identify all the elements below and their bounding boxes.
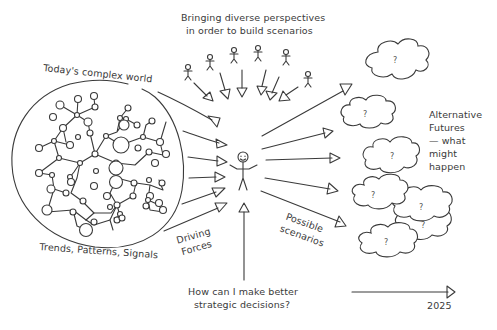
stakeholder-figure (206, 55, 214, 71)
scenario-cloud: ? (341, 95, 395, 128)
alternative-futures-line5: happen (429, 161, 465, 173)
question-arrow (239, 203, 249, 280)
network-edges (39, 98, 166, 230)
question-line2: strategic decisions? (194, 299, 290, 311)
svg-text:?: ? (421, 221, 425, 230)
network-nodes (36, 93, 170, 237)
diagram-title-line1: Bringing diverse perspectives (181, 12, 325, 24)
timeline-year: 2025 (427, 300, 452, 312)
stakeholder-arrows (194, 70, 298, 101)
stakeholder-figure (230, 48, 238, 64)
svg-text:?: ? (419, 203, 423, 212)
alternative-futures-line2: Futures (429, 122, 465, 134)
scenario-diagram: ? ? ? ? ? ? ? (0, 0, 497, 330)
scenario-cloud: ? (363, 137, 419, 173)
svg-text:?: ? (371, 191, 375, 200)
alternative-futures-line4: might (429, 148, 457, 160)
diagram-title-line2: in order to build scenarios (186, 25, 313, 37)
alternative-futures-line1: Alternative (429, 109, 482, 121)
scenario-cloud: ? (366, 39, 429, 79)
scenario-cloud: ? (359, 223, 418, 257)
svg-text:?: ? (363, 110, 367, 119)
stakeholder-figure (282, 50, 290, 66)
decision-maker-figure (230, 152, 257, 190)
scenario-cloud: ? (352, 174, 408, 209)
stakeholder-figure (254, 46, 262, 62)
svg-text:?: ? (393, 56, 397, 65)
svg-text:?: ? (390, 152, 394, 161)
stakeholder-figure (184, 65, 192, 81)
question-line1: How can I make better (188, 286, 298, 298)
person-to-scenario-arrows (261, 84, 352, 227)
stakeholder-figures (184, 46, 312, 88)
timeline-arrow (352, 286, 455, 298)
stakeholder-figure (304, 72, 312, 88)
svg-text:?: ? (384, 238, 388, 247)
alternative-futures-line3: — what (429, 135, 465, 147)
